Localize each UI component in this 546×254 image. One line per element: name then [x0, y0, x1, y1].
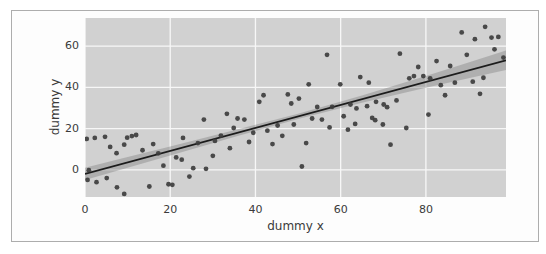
scatter-point [416, 65, 421, 70]
scatter-point [122, 142, 127, 147]
scatter-point [310, 116, 315, 121]
scatter-point [94, 180, 99, 185]
scatter-point [320, 117, 325, 122]
scatter-point [496, 35, 501, 40]
scatter-point [459, 30, 464, 35]
scatter-point [161, 163, 166, 168]
scatter-point [125, 135, 130, 140]
scatter-point [122, 192, 127, 197]
scatter-point [388, 142, 393, 147]
scatter-point [291, 122, 296, 127]
scatter-point [224, 111, 229, 116]
scatter-point [481, 75, 486, 80]
scatter-point [227, 146, 232, 151]
scatter-point [115, 185, 120, 190]
scatter-point [354, 106, 359, 111]
scatter-point [438, 83, 443, 88]
scatter-plot-canvas [85, 18, 506, 197]
scatter-point [170, 182, 175, 187]
scatter-point [315, 105, 320, 110]
scatter-point [219, 133, 224, 138]
scatter-point [365, 104, 370, 109]
scatter-point [492, 47, 497, 52]
scatter-point [421, 74, 426, 79]
scatter-point [85, 178, 90, 183]
scatter-point [156, 151, 161, 156]
scatter-point [304, 141, 309, 146]
scatter-point [86, 168, 91, 173]
scatter-point [242, 117, 247, 122]
scatter-point [434, 59, 439, 64]
scatter-point [325, 52, 330, 57]
y-axis-label: dummy y [48, 79, 62, 136]
scatter-point [327, 125, 332, 130]
scatter-point [404, 126, 409, 131]
scatter-point [470, 79, 475, 84]
scatter-point [103, 134, 108, 139]
scatter-point [478, 91, 483, 96]
scatter-point [380, 122, 385, 127]
scatter-point [235, 116, 240, 121]
scatter-point [285, 92, 290, 97]
scatter-point [151, 142, 156, 147]
scatter-point [306, 82, 311, 87]
scatter-point [104, 176, 109, 181]
scatter-point [394, 98, 399, 103]
scatter-point [464, 52, 469, 57]
scatter-point [289, 101, 294, 106]
scatter-point [448, 64, 453, 69]
scatter-point [374, 99, 379, 104]
scatter-point [489, 35, 494, 40]
scatter-point [275, 123, 280, 128]
scatter-point [280, 133, 285, 138]
scatter-point [366, 80, 371, 85]
scatter-point [140, 148, 145, 153]
scatter-point [338, 82, 343, 87]
scatter-point [428, 76, 433, 81]
scatter-point [174, 155, 179, 160]
scatter-point [92, 135, 97, 140]
scatter-point [231, 126, 236, 131]
scatter-point [181, 135, 186, 140]
scatter-point [330, 104, 335, 109]
scatter-point [134, 133, 139, 138]
scatter-point [201, 117, 206, 122]
scatter-point [179, 157, 184, 162]
scatter-point [397, 51, 402, 56]
scatter-point [443, 93, 448, 98]
scatter-point [210, 153, 215, 158]
scatter-point [108, 145, 113, 150]
scatter-point [191, 166, 196, 171]
scatter-point [247, 140, 252, 145]
scatter-point [297, 96, 302, 101]
scatter-point [270, 142, 275, 147]
scatter-point [348, 102, 353, 107]
scatter-point [385, 105, 390, 110]
scatter-point [412, 74, 417, 79]
scatter-point [299, 164, 304, 169]
scatter-point [358, 75, 363, 80]
scatter-point [147, 184, 152, 189]
scatter-point [407, 76, 412, 81]
scatter-point [472, 37, 477, 42]
scatter-point [251, 130, 256, 135]
scatter-point [346, 127, 351, 132]
scatter-point [213, 139, 218, 144]
scatter-point [426, 112, 431, 117]
scatter-point [373, 118, 378, 123]
x-axis-label: dummy x [85, 219, 506, 233]
scatter-point [204, 166, 209, 171]
scatter-point [196, 141, 201, 146]
scatter-point [257, 99, 262, 104]
scatter-point [261, 93, 266, 98]
scatter-point [501, 55, 506, 60]
scatter-point [353, 121, 358, 126]
scatter-point [341, 114, 346, 119]
scatter-point [114, 151, 119, 156]
scatter-point [265, 128, 270, 133]
scatter-point [452, 80, 457, 85]
scatter-point [483, 24, 488, 29]
scatter-point [187, 174, 192, 179]
scatter-point [129, 134, 134, 139]
